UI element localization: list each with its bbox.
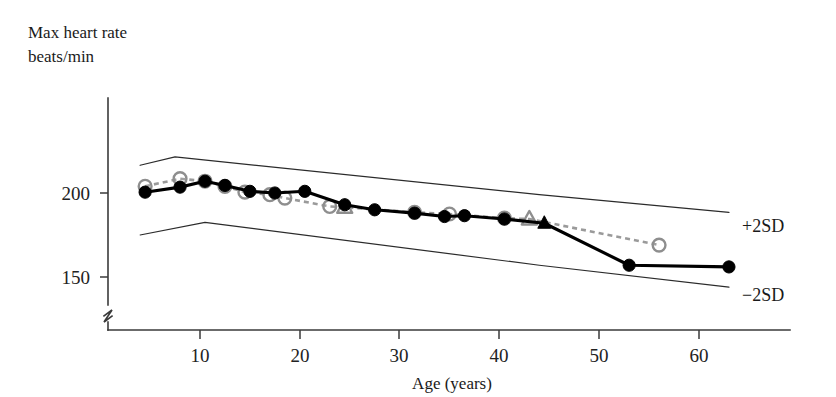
x-tick-label-20: 20 [291,345,310,366]
data-point-marker [438,210,450,222]
x-tick-label-60: 60 [690,345,709,366]
series-line-1 [140,222,729,287]
x-axis-title: Age (years) [412,374,492,393]
y-axis-title-line1: Max heart rate [28,23,127,42]
data-point-marker [219,179,231,191]
data-point-marker [139,186,151,198]
data-point-marker [339,199,351,211]
lower-sd-label: −2SD [742,285,784,305]
upper-sd-label: +2SD [742,216,784,236]
data-point-marker [653,239,666,252]
chart-figure: Max heart rate beats/min 200 150 10 20 3… [0,0,836,397]
y-axis-break-mark [104,310,112,322]
data-point-marker [269,187,281,199]
data-point-marker [458,210,470,222]
x-tick-label-10: 10 [191,345,210,366]
x-tick-label-50: 50 [590,345,609,366]
data-point-marker [199,175,211,187]
data-point-marker [408,207,420,219]
data-point-marker [369,204,381,216]
data-point-marker [299,185,311,197]
series-line-3 [145,181,729,267]
data-point-marker [723,261,735,273]
data-point-marker [174,181,186,193]
series-1 [140,222,729,287]
y-tick-label-150: 150 [62,267,91,288]
y-axis-ticks: 200 150 [62,183,109,288]
plot-layer [139,157,735,287]
x-tick-label-40: 40 [490,345,509,366]
data-point-marker [623,259,635,271]
data-point-marker [244,185,256,197]
x-axis-ticks: 10 20 30 40 50 60 [191,330,709,366]
y-tick-label-200: 200 [62,183,91,204]
chart-canvas: Max heart rate beats/min 200 150 10 20 3… [0,0,836,397]
series-3 [139,175,735,273]
data-point-marker [498,213,510,225]
y-axis-title-line2: beats/min [28,47,95,66]
x-tick-label-30: 30 [390,345,409,366]
